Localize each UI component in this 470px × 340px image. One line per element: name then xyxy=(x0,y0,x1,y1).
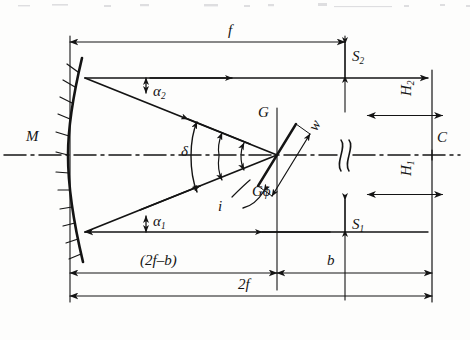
mirror-label: M xyxy=(26,128,39,145)
incidence-angle-tick xyxy=(232,180,250,197)
delta-angle-arc xyxy=(191,122,197,192)
two-f-label: 2f xyxy=(238,276,250,293)
delta-inner-tick-upper xyxy=(218,133,222,155)
alpha-1-label: α1 xyxy=(153,213,166,231)
h2-label: H2 xyxy=(398,81,416,97)
incidence-label: i xyxy=(218,198,222,215)
break-symbol-stroke-2 xyxy=(347,140,350,171)
f-label: f xyxy=(228,22,232,39)
diagram-canvas: f S2 S1 H2 H1 C M α2 α1 δ i G Gϕ w (2f–b… xyxy=(0,0,470,340)
lower-slant-ray-arrow xyxy=(140,186,200,210)
delta-inner-tick-upper-2 xyxy=(241,143,244,155)
s2-label: S2 xyxy=(352,48,364,66)
alpha-2-label: α2 xyxy=(153,83,166,101)
two-f-minus-b-label: (2f–b) xyxy=(140,252,177,269)
b-label: b xyxy=(327,252,335,269)
grating-width-dimension xyxy=(272,134,310,196)
delta-inner-tick-lower-2 xyxy=(241,156,244,170)
delta-label: δ xyxy=(181,143,188,160)
h1-label: H1 xyxy=(398,161,416,177)
break-symbol-stroke-1 xyxy=(339,140,342,171)
grating-blaze-label: Gϕ xyxy=(252,183,271,200)
grating-label: G xyxy=(258,104,269,121)
camera-label: C xyxy=(437,129,447,146)
s1-label: S1 xyxy=(352,216,364,234)
